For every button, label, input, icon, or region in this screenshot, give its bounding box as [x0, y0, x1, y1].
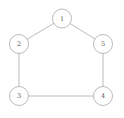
node-label-3: 3 — [17, 92, 21, 100]
graph-node-5: 5 — [94, 35, 113, 54]
graph-canvas: 12345 — [0, 0, 124, 118]
node-label-4: 4 — [101, 92, 105, 100]
node-label-2: 2 — [17, 40, 21, 48]
node-label-5: 5 — [101, 40, 105, 48]
graph-node-2: 2 — [10, 35, 29, 54]
graph-diagram: 12345 — [0, 0, 124, 118]
node-label-1: 1 — [60, 15, 64, 23]
graph-node-3: 3 — [10, 87, 29, 106]
graph-node-4: 4 — [94, 87, 113, 106]
graph-node-1: 1 — [53, 9, 72, 28]
